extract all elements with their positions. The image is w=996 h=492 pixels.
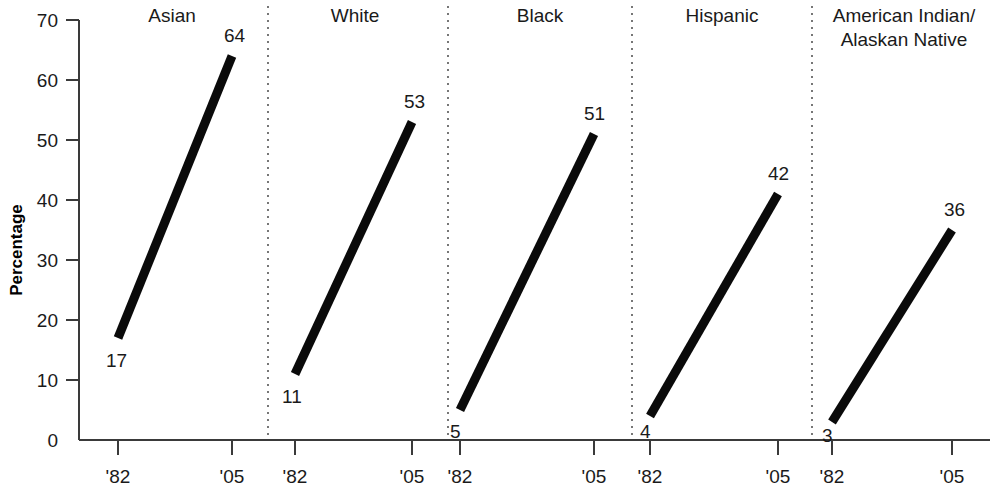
- y-tick-label-40: 40: [37, 190, 58, 211]
- x-tick-label-hispanic-05: '05: [766, 466, 791, 487]
- value-label-asian-start: 17: [106, 350, 127, 371]
- value-label-hispanic-end: 42: [768, 163, 789, 184]
- value-label-asian-end: 64: [224, 25, 246, 46]
- panel-black: Black 5 51 '82 '05: [448, 5, 607, 487]
- y-axis-title: Percentage: [7, 204, 26, 296]
- panel-american-indian-alaskan-native: American Indian/ Alaskan Native 3 36 '82…: [820, 5, 976, 487]
- y-tick-label-50: 50: [37, 130, 58, 151]
- slope-line-asian: [118, 56, 232, 338]
- y-axis-group: 70 60 50 40 30 20 10 0: [37, 10, 79, 451]
- value-label-american-indian-end: 36: [944, 199, 965, 220]
- x-tick-label-american-indian-82: '82: [820, 466, 845, 487]
- chart-canvas: Percentage 70 60 50 40 30 20 10 0: [0, 0, 996, 492]
- value-label-white-start: 11: [282, 386, 302, 407]
- x-tick-label-white-05: '05: [400, 466, 425, 487]
- panel-label-hispanic: Hispanic: [686, 5, 759, 26]
- value-label-american-indian-start: 3: [822, 425, 833, 446]
- value-label-hispanic-start: 4: [640, 421, 651, 442]
- x-tick-label-asian-05: '05: [220, 466, 245, 487]
- panel-label-american-indian-line2: Alaskan Native: [841, 29, 968, 50]
- x-tick-label-hispanic-82: '82: [638, 466, 663, 487]
- panel-label-american-indian-line1: American Indian/: [833, 5, 976, 26]
- slope-line-white: [295, 122, 412, 374]
- slope-line-hispanic: [650, 194, 778, 416]
- slope-line-black: [460, 134, 594, 410]
- value-label-black-end: 51: [584, 103, 605, 124]
- panel-hispanic: Hispanic 4 42 '82 '05: [638, 5, 791, 487]
- y-tick-label-20: 20: [37, 310, 58, 331]
- panel-asian: Asian 17 64 '82 '05: [106, 5, 246, 487]
- panel-label-white: White: [331, 5, 380, 26]
- x-tick-label-black-05: '05: [582, 466, 607, 487]
- value-label-white-end: 53: [404, 91, 425, 112]
- x-tick-label-american-indian-05: '05: [940, 466, 965, 487]
- y-tick-label-30: 30: [37, 250, 58, 271]
- y-tick-label-10: 10: [37, 370, 58, 391]
- x-tick-label-black-82: '82: [448, 466, 473, 487]
- x-tick-label-white-82: '82: [283, 466, 308, 487]
- panel-label-asian: Asian: [148, 5, 196, 26]
- panel-white: White 11 53 '82 '05: [282, 5, 425, 487]
- y-tick-label-0: 0: [47, 430, 58, 451]
- y-tick-label-70: 70: [37, 10, 58, 31]
- slope-chart: Percentage 70 60 50 40 30 20 10 0: [0, 0, 996, 492]
- x-tick-label-asian-82: '82: [106, 466, 131, 487]
- value-label-black-start: 5: [450, 421, 461, 442]
- slope-line-american-indian: [832, 230, 952, 422]
- panel-label-black: Black: [517, 5, 564, 26]
- y-tick-label-60: 60: [37, 70, 58, 91]
